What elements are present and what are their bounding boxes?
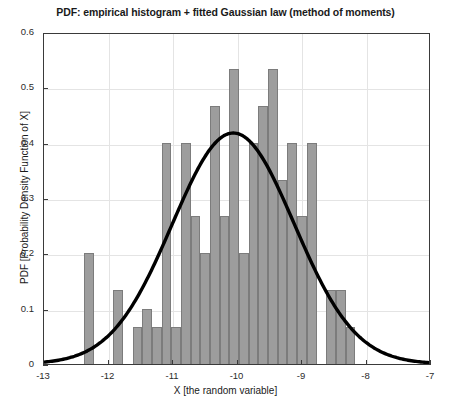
y-tick-mark	[43, 365, 48, 366]
y-tick-mark	[43, 254, 48, 255]
fitted-gaussian-curve	[44, 34, 429, 364]
x-tick-mark	[237, 360, 238, 365]
y-tick-label: 0.6	[0, 26, 34, 37]
x-tick-label: -11	[152, 370, 192, 381]
plot-area	[43, 33, 430, 365]
y-axis-label: PDF [Probability Density Function of X]	[19, 38, 30, 358]
x-tick-label: -13	[23, 370, 63, 381]
x-tick-mark	[108, 360, 109, 365]
x-tick-mark	[43, 360, 44, 365]
y-tick-mark	[43, 199, 48, 200]
x-tick-mark	[301, 360, 302, 365]
x-tick-label: -9	[281, 370, 321, 381]
y-tick-mark	[43, 144, 48, 145]
x-tick-label: -7	[410, 370, 450, 381]
x-tick-label: -8	[346, 370, 386, 381]
y-tick-mark	[43, 33, 48, 34]
y-tick-label: 0	[0, 358, 34, 369]
x-tick-label: -12	[88, 370, 128, 381]
figure: PDF: empirical histogram + fitted Gaussi…	[0, 0, 451, 409]
y-tick-mark	[43, 88, 48, 89]
x-tick-mark	[172, 360, 173, 365]
y-tick-mark	[43, 310, 48, 311]
x-tick-mark	[430, 360, 431, 365]
x-tick-mark	[366, 360, 367, 365]
x-axis-label: X [the random variable]	[0, 385, 451, 396]
x-tick-label: -10	[217, 370, 257, 381]
chart-title: PDF: empirical histogram + fitted Gaussi…	[0, 6, 451, 18]
